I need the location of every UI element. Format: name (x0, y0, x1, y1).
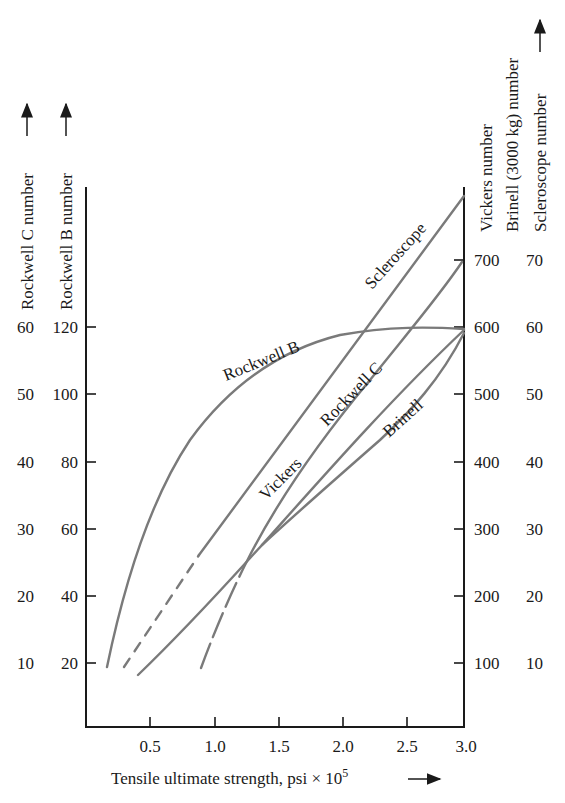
rockwell-c-curve (201, 262, 462, 668)
x-axis-ticks (150, 717, 407, 727)
svg-text:30: 30 (526, 520, 543, 539)
svg-text:300: 300 (474, 520, 500, 539)
svg-text:120: 120 (53, 318, 79, 337)
svg-text:30: 30 (17, 520, 34, 539)
svg-text:Scleroscope number: Scleroscope number (531, 93, 550, 232)
x-axis-label: Tensile ultimate strength, psi × 105 (111, 766, 440, 788)
x-tick-labels: 0.5 1.0 1.5 2.0 2.5 3.0 (139, 737, 476, 756)
svg-text:2.5: 2.5 (396, 737, 417, 756)
svg-text:700: 700 (474, 251, 500, 270)
svg-text:200: 200 (474, 587, 500, 606)
svg-text:10: 10 (17, 654, 34, 673)
svg-text:1.0: 1.0 (204, 737, 225, 756)
svg-text:100: 100 (474, 654, 500, 673)
svg-text:60: 60 (61, 520, 78, 539)
svg-text:Brinell (3000 kg) number: Brinell (3000 kg) number (503, 57, 522, 232)
vickers-curve (138, 330, 464, 675)
svg-text:60: 60 (17, 318, 34, 337)
svg-text:40: 40 (17, 453, 34, 472)
svg-text:Vickers number: Vickers number (477, 124, 496, 232)
rockwell-b-label: Rockwell B (220, 337, 302, 385)
svg-text:3.0: 3.0 (455, 737, 476, 756)
svg-text:50: 50 (526, 385, 543, 404)
svg-text:2.0: 2.0 (332, 737, 353, 756)
svg-text:Tensile ultimate strength, psi: Tensile ultimate strength, psi × 105 (111, 766, 348, 788)
svg-text:1.5: 1.5 (268, 737, 289, 756)
hardness-conversion-chart: 60 50 40 30 20 10 120 100 80 60 40 20 70… (0, 0, 565, 803)
svg-text:60: 60 (526, 318, 543, 337)
svg-text:Rockwell B number: Rockwell B number (57, 173, 76, 310)
svg-text:40: 40 (526, 453, 543, 472)
svg-text:40: 40 (61, 587, 78, 606)
rockwell-b-tick-labels: 120 100 80 60 40 20 (53, 318, 79, 673)
svg-text:70: 70 (526, 251, 543, 270)
rockwell-b-curve (107, 328, 464, 667)
left-axis-ticks (86, 327, 96, 663)
svg-text:500: 500 (474, 385, 500, 404)
vickers-axis-label: Vickers number (477, 124, 496, 232)
svg-text:100: 100 (53, 385, 79, 404)
svg-text:80: 80 (61, 453, 78, 472)
brinell-curve (262, 333, 464, 545)
right-axis-ticks (454, 260, 464, 663)
vickers-brinell-tick-labels: 700 600 500 400 300 200 100 (474, 251, 500, 673)
svg-text:20: 20 (17, 587, 34, 606)
brinell-label: Brinell (379, 395, 427, 441)
svg-text:0.5: 0.5 (139, 737, 160, 756)
scleroscope-curve (124, 196, 464, 667)
svg-text:Rockwell C number: Rockwell C number (18, 173, 37, 310)
svg-text:600: 600 (474, 318, 500, 337)
rockwell-c-axis-label: Rockwell C number (18, 104, 37, 310)
vickers-label: Vickers (255, 454, 305, 504)
scleroscope-tick-labels: 70 60 50 40 30 20 10 (526, 251, 543, 673)
scleroscope-axis-label: Scleroscope number (531, 20, 550, 232)
rockwell-c-tick-labels: 60 50 40 30 20 10 (17, 318, 34, 673)
svg-text:400: 400 (474, 453, 500, 472)
rockwell-b-axis-label: Rockwell B number (57, 104, 76, 310)
svg-text:10: 10 (526, 654, 543, 673)
svg-text:20: 20 (61, 654, 78, 673)
svg-text:50: 50 (17, 385, 34, 404)
svg-text:20: 20 (526, 587, 543, 606)
brinell-axis-label: Brinell (3000 kg) number (503, 57, 522, 232)
